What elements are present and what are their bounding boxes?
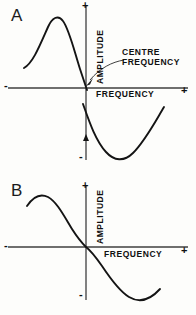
panel-a-lower-curve [83,104,164,159]
centre-frequency-callout: CENTRE FREQUENCY [122,48,180,67]
panel-a-axis-arrow-marker [83,134,89,141]
panel-a-x-negative-sign: - [4,79,8,91]
panel-b-x-axis-label: FREQUENCY [104,249,162,259]
panel-b-s-curve [27,195,160,300]
panel-a-upper-curve [24,17,87,90]
panel-a-y-negative-sign: - [79,150,83,162]
panel-b-y-negative-sign: - [79,288,83,300]
panel-a-y-axis-label: AMPLITUDE [95,29,105,84]
panel-a-x-positive-sign: + [181,84,187,96]
panel-a-x-axis-label: FREQUENCY [96,89,154,99]
centre-frequency-line2: FREQUENCY [122,58,180,68]
panel-b-y-axis-label: AMPLITUDE [95,189,105,244]
panel-a-y-positive-sign: + [82,0,88,11]
panel-b-letter: B [11,181,22,201]
panel-b-x-negative-sign: - [4,239,8,251]
panel-b-x-positive-sign: + [181,244,187,256]
panel-b-y-positive-sign: + [82,179,88,191]
panel-a-letter: A [11,6,22,26]
centre-frequency-arrowhead [86,78,93,86]
